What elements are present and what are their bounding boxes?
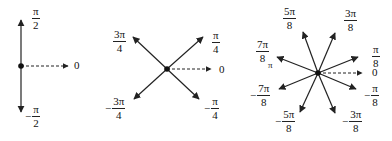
label-pi: π bbox=[268, 61, 273, 70]
label-minus-pi-over-8: − π8 bbox=[364, 83, 379, 108]
label-pi-over-4: π4 bbox=[212, 30, 220, 55]
arrow-ne bbox=[167, 37, 203, 69]
label-minus-3pi-over-4: − 3π4 bbox=[105, 96, 125, 121]
label-zero: 0 bbox=[372, 67, 378, 78]
label-minus-3pi-over-8: − 3π8 bbox=[342, 109, 362, 134]
direction-diagrams bbox=[0, 0, 392, 141]
label-3pi-over-4: 3π4 bbox=[113, 29, 126, 54]
arrow-7pi-8 bbox=[277, 57, 318, 73]
label-minus-5pi-over-8: − 5π8 bbox=[275, 109, 295, 134]
label-pi-over-2: π2 bbox=[31, 6, 40, 31]
label-minus-7pi-over-8: − 7π8 bbox=[250, 83, 270, 108]
label-zero: 0 bbox=[219, 64, 225, 75]
arrow-sw bbox=[134, 69, 167, 99]
diagram-two-directions bbox=[18, 20, 68, 112]
arrow-nw bbox=[133, 37, 167, 69]
diagram-eight-directions bbox=[277, 32, 362, 113]
label-minus-pi-over-4: − π4 bbox=[204, 96, 219, 121]
arrow-se bbox=[167, 69, 199, 99]
arrow-5pi-8 bbox=[303, 32, 318, 73]
label-3pi-over-8: 3π8 bbox=[344, 8, 357, 33]
label-minus-pi-over-2: − π2 bbox=[25, 104, 40, 129]
center-dot bbox=[164, 66, 170, 72]
label-5pi-over-8: 5π8 bbox=[283, 6, 296, 31]
diagram-four-directions bbox=[133, 37, 211, 99]
center-dot bbox=[315, 70, 321, 76]
label-zero: 0 bbox=[74, 60, 80, 71]
center-dot bbox=[18, 63, 24, 69]
